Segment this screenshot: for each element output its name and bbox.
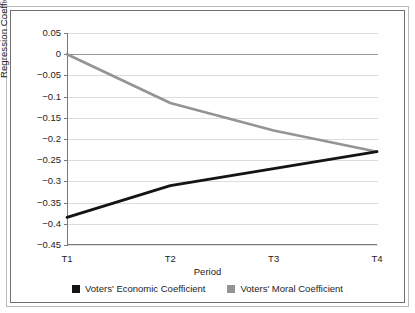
y-axis-tick-label: −0.3 bbox=[15, 176, 61, 186]
y-axis-tick-label: −0.35 bbox=[15, 198, 61, 208]
x-axis-tick-label: T1 bbox=[47, 254, 87, 264]
x-axis-tick-label: T3 bbox=[254, 254, 294, 264]
gridline bbox=[68, 245, 378, 246]
line-voters-economic-coefficient bbox=[67, 152, 377, 218]
y-axis-tick-mark bbox=[64, 245, 68, 246]
legend-swatch-icon bbox=[227, 285, 235, 293]
y-axis-tick-label: −0.45 bbox=[15, 240, 61, 250]
legend-item-label: Voters' Moral Coefficient bbox=[240, 284, 343, 294]
y-axis-tick-label: 0 bbox=[15, 49, 61, 59]
y-axis-tick-label: −0.05 bbox=[15, 70, 61, 80]
y-axis-title: Regression Coefficient bbox=[0, 0, 9, 78]
line-voters-moral-coefficient bbox=[67, 54, 377, 152]
y-axis-tick-label: −0.25 bbox=[15, 155, 61, 165]
legend-swatch-icon bbox=[72, 285, 80, 293]
legend-item[interactable]: Voters' Economic Coefficient bbox=[72, 284, 205, 294]
legend-item-label: Voters' Economic Coefficient bbox=[85, 284, 205, 294]
y-axis-tick-label: 0.05 bbox=[15, 28, 61, 38]
series-lines-group bbox=[67, 33, 377, 245]
y-axis-tick-label: −0.2 bbox=[15, 134, 61, 144]
y-axis-tick-label: −0.15 bbox=[15, 113, 61, 123]
y-axis-tick-label: −0.1 bbox=[15, 92, 61, 102]
x-axis-tick-label: T2 bbox=[150, 254, 190, 264]
legend-item[interactable]: Voters' Moral Coefficient bbox=[227, 284, 343, 294]
x-axis-tick-label: T4 bbox=[357, 254, 397, 264]
x-axis-title: Period bbox=[0, 266, 415, 277]
chart-legend: Voters' Economic CoefficientVoters' Mora… bbox=[0, 284, 415, 294]
figure-container: Regression Coefficient 0.050−0.05−0.1−0.… bbox=[0, 0, 415, 313]
y-axis-tick-label: −0.4 bbox=[15, 219, 61, 229]
